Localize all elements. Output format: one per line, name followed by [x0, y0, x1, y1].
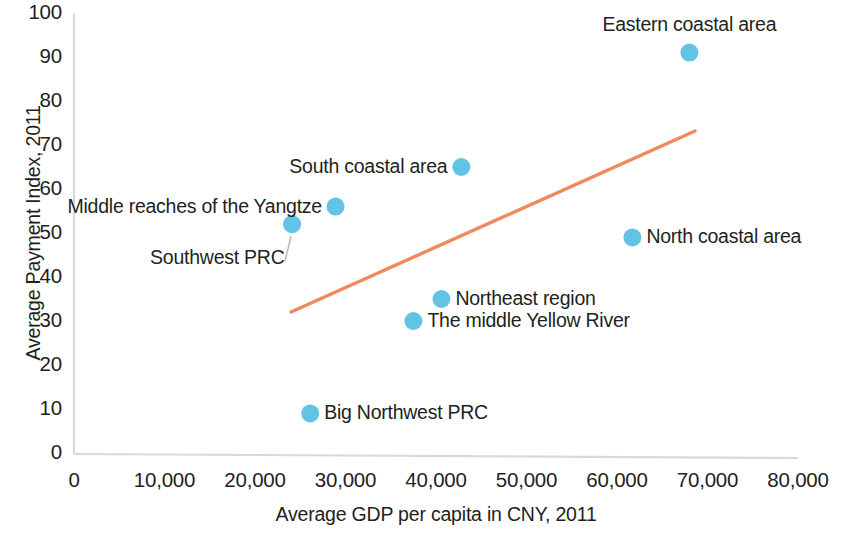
- y-tick-label: 90: [0, 44, 62, 68]
- data-point-label: North coastal area: [646, 225, 801, 248]
- y-axis-title: Average Payment Index, 2011: [22, 105, 45, 360]
- plot-canvas: [0, 0, 844, 533]
- data-point-label: Eastern coastal area: [602, 13, 776, 36]
- data-point-label: Southwest PRC: [150, 246, 284, 269]
- y-tick-label: 10: [0, 396, 62, 420]
- data-point[interactable]: [283, 215, 301, 233]
- data-point[interactable]: [452, 158, 470, 176]
- data-point[interactable]: [404, 312, 422, 330]
- data-point-label: Northeast region: [455, 287, 595, 310]
- data-point[interactable]: [301, 404, 319, 422]
- y-tick-label: 0: [0, 440, 62, 464]
- x-axis-line: [74, 454, 798, 458]
- data-point[interactable]: [432, 290, 450, 308]
- data-point-label: The middle Yellow River: [427, 309, 629, 332]
- data-point-label: South coastal area: [289, 155, 447, 178]
- scatter-chart: 0102030405060708090100 010,00020,00030,0…: [0, 0, 844, 533]
- data-point[interactable]: [623, 228, 641, 246]
- data-point-label: Middle reaches of the Yangtze: [68, 195, 322, 218]
- data-point[interactable]: [327, 198, 345, 216]
- data-point-label: Big Northwest PRC: [324, 401, 488, 424]
- x-tick-label: 80,000: [738, 468, 844, 492]
- southwest-prc-leader-line: [285, 236, 291, 261]
- data-points-group: [283, 44, 698, 423]
- y-tick-label: 100: [0, 0, 62, 24]
- data-point[interactable]: [680, 44, 698, 62]
- x-axis-title: Average GDP per capita in CNY, 2011: [276, 503, 597, 526]
